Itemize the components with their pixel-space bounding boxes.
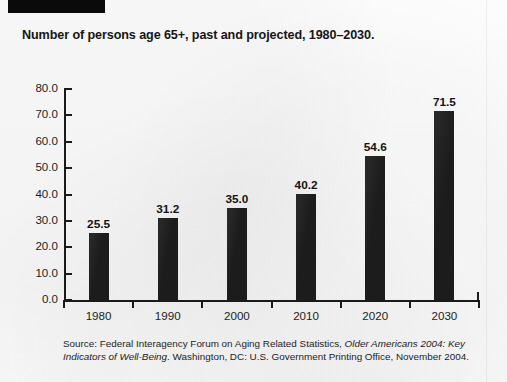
y-axis-tick-label: 60.0 — [6, 134, 58, 147]
bar-value-label-2020: 54.6 — [345, 140, 405, 154]
y-axis-tick-label: 20.0 — [6, 239, 58, 252]
y-axis-tick — [64, 167, 72, 169]
bar-value-label-1980: 25.5 — [69, 217, 129, 231]
y-axis-tick — [64, 246, 72, 248]
x-axis-label-2020: 2020 — [345, 309, 405, 322]
x-axis-tick — [201, 300, 203, 308]
x-axis-label-2030: 2030 — [414, 309, 474, 322]
y-axis-tick-label: 0.0 — [6, 292, 58, 305]
y-axis-tick-label: 30.0 — [6, 213, 58, 226]
y-axis-tick-label: 80.0 — [6, 81, 58, 94]
bar-value-label-2010: 40.2 — [276, 178, 336, 192]
x-axis-tick — [132, 300, 134, 308]
y-axis-tick — [64, 194, 72, 196]
x-axis-label-2000: 2000 — [207, 309, 267, 322]
source-prefix: Source: Federal Interagency Forum on Agi… — [63, 338, 345, 349]
x-axis-label-2010: 2010 — [276, 309, 336, 322]
x-axis-tick — [478, 300, 480, 308]
page-edge-line — [486, 0, 487, 382]
y-axis-tick-label: 70.0 — [6, 107, 58, 120]
bar-chart-plot: 80.070.060.050.040.030.020.010.00.0 1980… — [0, 0, 507, 382]
bar-2020 — [365, 156, 385, 300]
source-suffix: . Washington, DC: U.S. Government Printi… — [167, 351, 469, 362]
y-axis-tick-label: 10.0 — [6, 266, 58, 279]
y-axis-tick — [64, 88, 72, 90]
y-axis-tick — [64, 299, 72, 301]
x-axis-label-1990: 1990 — [138, 309, 198, 322]
y-axis-tick-label: 50.0 — [6, 160, 58, 173]
bar-value-label-2030: 71.5 — [414, 95, 474, 109]
y-axis-tick — [64, 114, 72, 116]
bar-value-label-1990: 31.2 — [138, 202, 198, 216]
x-axis-tick — [340, 300, 342, 308]
x-axis-label-1980: 1980 — [69, 309, 129, 322]
bar-1980 — [89, 233, 109, 300]
y-axis-tick — [64, 141, 72, 143]
bar-2030 — [434, 111, 454, 300]
bar-2000 — [227, 208, 247, 300]
bar-value-label-2000: 35.0 — [207, 192, 267, 206]
figure-page: Number of persons age 65+, past and proj… — [0, 0, 507, 382]
source-note: Source: Federal Interagency Forum on Agi… — [63, 338, 483, 363]
y-axis-tick — [64, 273, 72, 275]
bar-2010 — [296, 194, 316, 300]
y-axis-tick-label: 40.0 — [6, 187, 58, 200]
x-axis-tick — [63, 300, 65, 308]
bar-1990 — [158, 218, 178, 300]
x-axis-tick — [409, 300, 411, 308]
x-axis-tick — [271, 300, 273, 308]
